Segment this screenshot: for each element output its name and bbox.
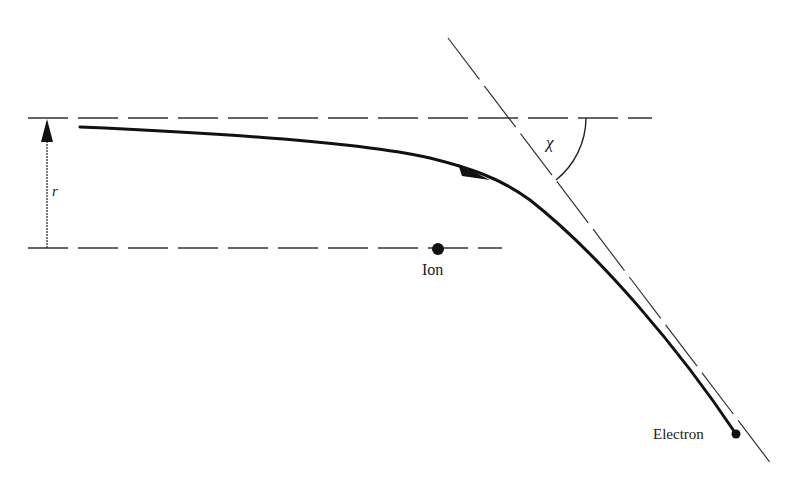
trajectory-direction-arrow	[458, 164, 490, 180]
ion-point	[432, 243, 444, 255]
electron-point	[732, 430, 741, 439]
scattering-diagram: r χ Ion Electron	[0, 0, 789, 477]
impact-parameter-label: r	[52, 183, 58, 199]
electron-trajectory	[80, 127, 736, 434]
deflection-angle-arc	[556, 118, 586, 180]
electron-label: Electron	[653, 426, 704, 442]
asymptote-line	[448, 38, 772, 465]
ion-label: Ion	[422, 261, 443, 278]
deflection-angle-label: χ	[544, 133, 554, 152]
